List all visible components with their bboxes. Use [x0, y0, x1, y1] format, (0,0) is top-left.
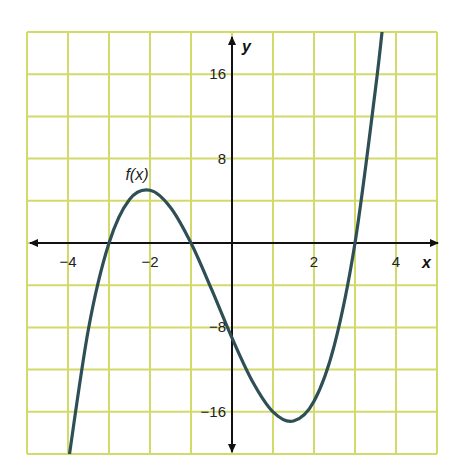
x-tick-label: −2 [141, 253, 158, 270]
x-axis-label: x [421, 254, 432, 271]
y-tick-label: 8 [218, 150, 226, 167]
y-tick-label: 16 [209, 65, 226, 82]
y-tick-label: −8 [209, 318, 226, 335]
function-graph: −4−224168−8−16 x y f(x) [0, 0, 459, 475]
x-tick-label: 2 [310, 253, 318, 270]
function-curve [68, 16, 384, 464]
curve-path [68, 16, 384, 464]
y-axis-label: y [241, 38, 252, 55]
y-tick-label: −16 [201, 403, 226, 420]
axes [30, 37, 438, 452]
x-tick-label: −4 [59, 253, 76, 270]
x-tick-label: 4 [392, 253, 400, 270]
function-label: f(x) [125, 166, 148, 183]
